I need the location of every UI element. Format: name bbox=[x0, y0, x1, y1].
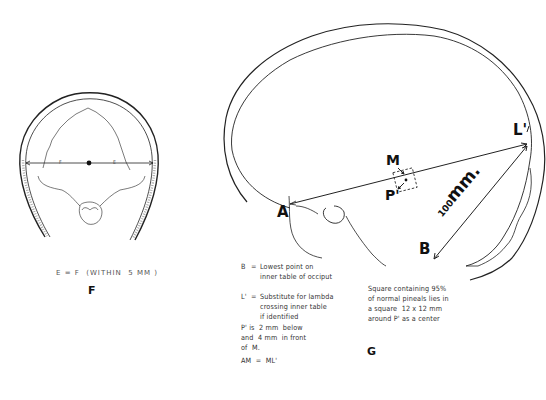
panel-f-label: F bbox=[88, 284, 96, 297]
note-p-line3: of M. bbox=[241, 343, 260, 353]
legend-l-sep: = bbox=[251, 292, 257, 302]
note-p-line1: P' is 2 mm below bbox=[241, 323, 303, 333]
square-note-line4: around P' as a center bbox=[368, 314, 440, 324]
legend-l-line1: Substitute for lambda bbox=[260, 292, 334, 302]
legend-l-line2: crossing inner table bbox=[260, 302, 327, 312]
square-note-line2: of normal pineals lies in bbox=[368, 294, 449, 304]
legend-l-key: L' bbox=[241, 292, 247, 302]
legend-b-sep: = bbox=[251, 262, 257, 272]
square-note-line1: Square containing 95% bbox=[368, 284, 446, 294]
legend-b-line1: Lowest point on bbox=[260, 262, 314, 272]
segment-label-f: F bbox=[59, 158, 62, 168]
panel-f-caption: E = F (WITHIN 5 MM ) bbox=[56, 269, 158, 277]
note-p-line2: and 4 mm in front bbox=[241, 333, 306, 343]
panel-g-label: G bbox=[367, 345, 376, 358]
note-am-ml: AM = ML' bbox=[241, 356, 277, 366]
point-label-m: M bbox=[386, 152, 400, 168]
point-label-p-prime: P' bbox=[385, 187, 400, 203]
square-note-line3: a square 12 x 12 mm bbox=[368, 304, 442, 314]
legend-b-key: B bbox=[241, 262, 246, 272]
segment-label-e: E bbox=[113, 158, 116, 168]
point-label-l-prime: L' bbox=[513, 121, 527, 139]
legend-l-line3: if identified bbox=[260, 312, 299, 322]
legend-b-line2: inner table of occiput bbox=[260, 272, 332, 282]
point-label-b: B bbox=[419, 240, 430, 258]
panel-f-skull-drawing bbox=[20, 93, 159, 240]
panel-g-skull-drawing bbox=[224, 24, 545, 280]
figure-canvas: F E E = F (WITHIN 5 MM ) F A B L' M P' 1… bbox=[0, 0, 546, 400]
point-label-a: A bbox=[277, 203, 289, 221]
